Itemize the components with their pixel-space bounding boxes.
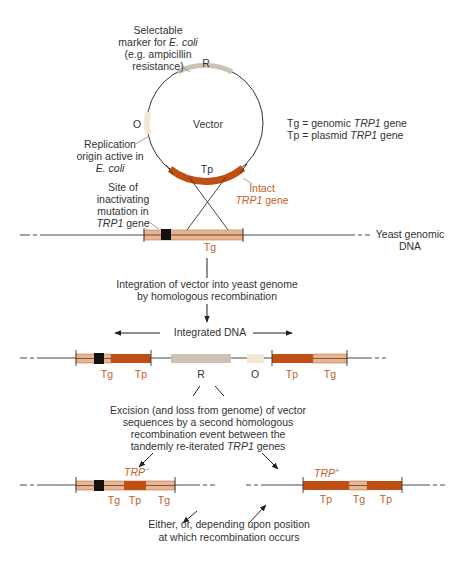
- result-trp-minus: TRP− Tg Tp Tg: [20, 466, 215, 506]
- genomic-dna: Tg: [20, 228, 370, 253]
- svg-text:inactivating: inactivating: [97, 193, 150, 205]
- origin-annotation: Replication origin active in E. coli: [76, 136, 149, 174]
- svg-text:Yeast genomic: Yeast genomic: [376, 228, 445, 240]
- intact-annotation: Intact TRP1 gene: [235, 178, 288, 206]
- svg-text:TRP1 gene: TRP1 gene: [96, 217, 149, 229]
- result-trp-plus: TRP+ Tp Tg Tp: [246, 467, 445, 505]
- label-R: R: [202, 57, 210, 69]
- svg-text:sequences by a second homologo: sequences by a second homologous: [123, 416, 293, 428]
- legend-tg: Tg = genomic TRP1 gene: [287, 117, 407, 129]
- svg-text:Tg: Tg: [101, 368, 113, 380]
- crossover-line-2: [181, 177, 226, 238]
- recombination-diagram: R O Vector Tp Selectable marker for E. c…: [0, 0, 463, 561]
- svg-text:Tp: Tp: [320, 493, 332, 505]
- site-annotation: Site of inactivating mutation in TRP1 ge…: [96, 181, 159, 229]
- integrated-mutation: [94, 353, 104, 364]
- svg-text:origin active in: origin active in: [76, 150, 143, 162]
- origin-segment: [147, 112, 148, 134]
- svg-text:marker for E. coli: marker for E. coli: [118, 36, 198, 48]
- svg-text:Tg: Tg: [108, 494, 120, 506]
- svg-text:Site of: Site of: [108, 181, 138, 193]
- svg-text:O: O: [251, 368, 259, 380]
- legend: Tg = genomic TRP1 gene Tp = plasmid TRP1…: [287, 117, 407, 141]
- footer-line1: Either, or, depending upon position: [148, 518, 310, 530]
- trp-minus-label: TRP−: [124, 466, 149, 478]
- svg-text:resistance): resistance): [132, 60, 183, 72]
- svg-text:Replication: Replication: [84, 138, 136, 150]
- integrated-tp-right: [272, 354, 313, 363]
- trp-plus-tp-right: [367, 481, 402, 490]
- svg-text:Selectable: Selectable: [133, 24, 182, 36]
- trp-plus-label: TRP+: [314, 467, 339, 479]
- origin-leader: [136, 136, 149, 144]
- footer-line2: at which recombination occurs: [158, 531, 299, 543]
- vector-label: Vector: [193, 118, 223, 130]
- integrated-tp-left: [111, 354, 151, 363]
- svg-text:Tp: Tp: [129, 494, 141, 506]
- svg-text:recombination event between th: recombination event between the: [131, 428, 286, 440]
- integrated-O: [247, 354, 264, 363]
- trp-plus-tp-left: [303, 481, 349, 490]
- intact-leader: [243, 178, 252, 184]
- svg-text:Excision (and loss from genome: Excision (and loss from genome) of vecto…: [110, 404, 307, 416]
- arrow-to-trp-minus: [139, 453, 153, 467]
- step2-connector-left: [193, 386, 200, 396]
- trp-minus-tp: [124, 481, 146, 490]
- mutation-site: [161, 229, 171, 240]
- integrated-dna: Tg Tp R O Tp Tg: [20, 350, 386, 380]
- label-O: O: [133, 118, 141, 130]
- svg-text:TRP1 gene: TRP1 gene: [235, 194, 288, 206]
- step1-text-line1: Integration of vector into yeast genome: [116, 278, 298, 290]
- svg-text:Tp: Tp: [380, 493, 392, 505]
- label-Tp-plasmid: Tp: [201, 163, 213, 175]
- svg-text:Tg: Tg: [353, 493, 365, 505]
- marker-annotation: Selectable marker for E. coli (e.g. ampi…: [118, 24, 198, 72]
- arrow-to-trp-plus: [262, 453, 278, 469]
- svg-text:Intact: Intact: [249, 182, 275, 194]
- svg-text:(e.g. ampicillin: (e.g. ampicillin: [124, 48, 191, 60]
- vector-plasmid: R O Vector Tp: [133, 57, 263, 238]
- integrated-R: [171, 354, 231, 363]
- svg-text:mutation in: mutation in: [97, 205, 149, 217]
- legend-tp: Tp = plasmid TRP1 gene: [287, 129, 404, 141]
- svg-text:Tg: Tg: [324, 368, 336, 380]
- integrated-dna-label: Integrated DNA: [174, 326, 246, 338]
- yeast-dna-label: Yeast genomic DNA: [376, 228, 445, 252]
- svg-text:Tp: Tp: [286, 368, 298, 380]
- trp-minus-mutation: [94, 480, 104, 491]
- svg-text:Tg: Tg: [158, 494, 170, 506]
- svg-text:tandemly re-iterated TRP1 gene: tandemly re-iterated TRP1 genes: [131, 440, 286, 452]
- svg-text:R: R: [197, 368, 205, 380]
- step1-text-line2: by homologous recombination: [137, 290, 277, 302]
- step2-connector-right: [215, 386, 224, 396]
- svg-text:DNA: DNA: [399, 240, 421, 252]
- step2-text: Excision (and loss from genome) of vecto…: [110, 404, 307, 452]
- label-Tg-genomic: Tg: [204, 241, 216, 253]
- svg-text:Tp: Tp: [135, 368, 147, 380]
- crossover-line-1: [189, 177, 234, 238]
- svg-text:E. coli: E. coli: [96, 162, 125, 174]
